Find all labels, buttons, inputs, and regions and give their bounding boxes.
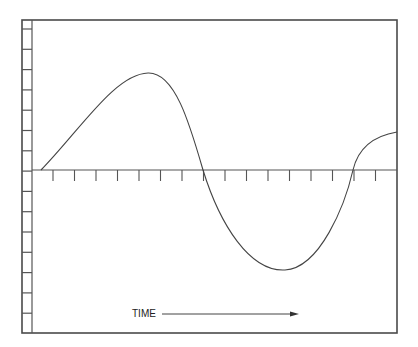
vertical-ruler-ticks	[22, 29, 32, 313]
time-axis-ticks	[53, 170, 376, 181]
waveform-curve	[41, 73, 397, 270]
diagram-frame	[22, 20, 397, 333]
right-arrow-icon	[290, 312, 299, 317]
x-axis-label: TIME	[132, 308, 156, 319]
waveform-diagram: TIME	[0, 0, 418, 347]
